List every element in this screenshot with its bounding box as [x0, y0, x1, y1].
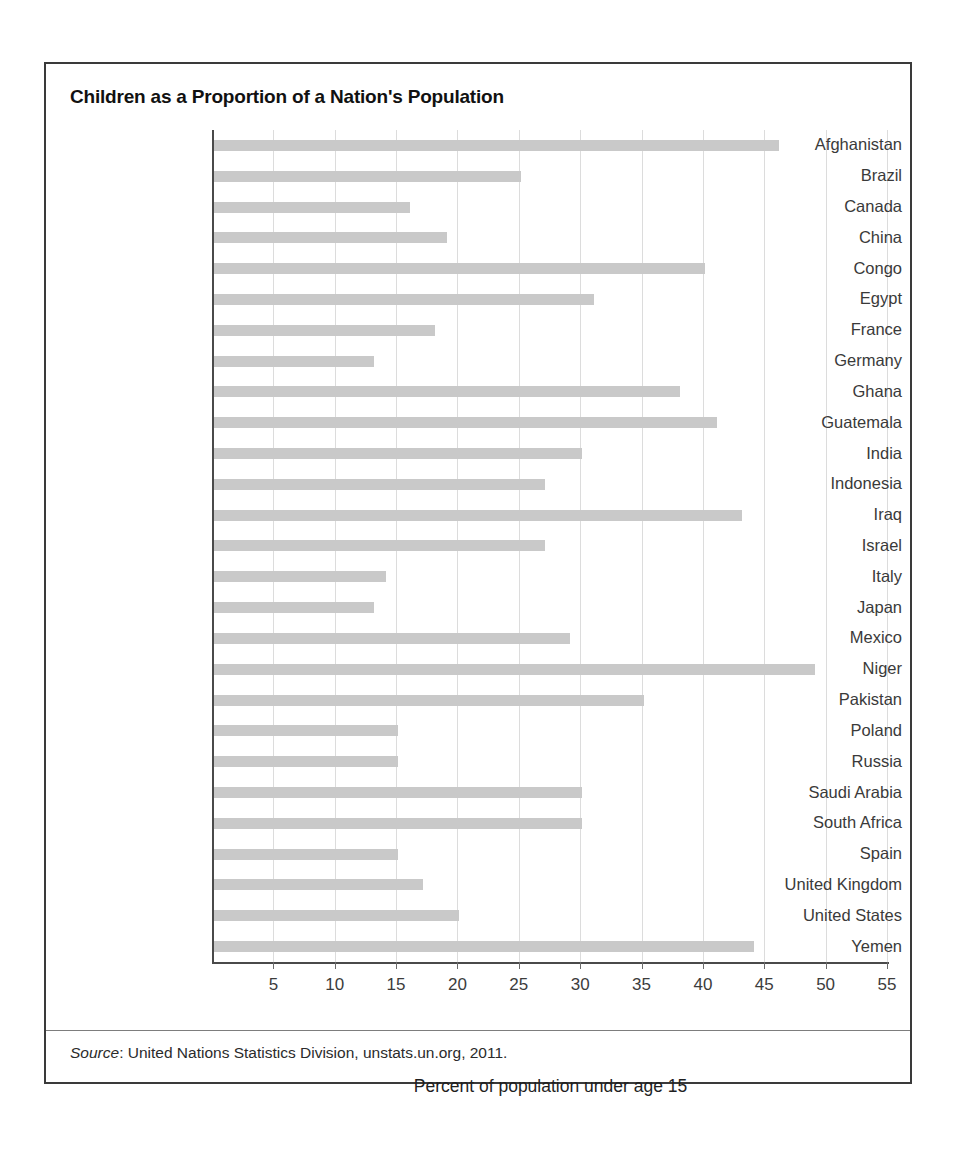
bar-row: Poland: [46, 715, 910, 746]
category-label-china: China: [744, 228, 910, 247]
category-label-spain: Spain: [744, 844, 910, 863]
category-label-south-africa: South Africa: [744, 813, 910, 832]
bar-japan: [214, 602, 374, 613]
bar-row: Italy: [46, 561, 910, 592]
bar-row: Niger: [46, 654, 910, 685]
x-tick-label-55: 55: [857, 975, 917, 995]
category-label-egypt: Egypt: [744, 289, 910, 308]
bar-row: France: [46, 315, 910, 346]
bar-pakistan: [214, 695, 644, 706]
category-label-guatemala: Guatemala: [744, 413, 910, 432]
x-tick-45: [764, 962, 765, 969]
category-label-russia: Russia: [744, 752, 910, 771]
category-label-united-states: United States: [744, 906, 910, 925]
category-label-italy: Italy: [744, 567, 910, 586]
bar-ghana: [214, 386, 680, 397]
bar-russia: [214, 756, 398, 767]
bar-saudi-arabia: [214, 787, 582, 798]
x-tick-label-40: 40: [673, 975, 733, 995]
bar-row: China: [46, 222, 910, 253]
category-label-indonesia: Indonesia: [744, 474, 910, 493]
bar-china: [214, 232, 447, 243]
category-label-yemen: Yemen: [744, 937, 910, 956]
category-label-japan: Japan: [744, 598, 910, 617]
bar-south-africa: [214, 818, 582, 829]
x-axis-line: [212, 962, 889, 964]
category-label-mexico: Mexico: [744, 628, 910, 647]
x-tick-5: [273, 962, 274, 969]
x-tick-label-50: 50: [796, 975, 856, 995]
x-tick-30: [580, 962, 581, 969]
bar-congo: [214, 263, 705, 274]
x-tick-label-25: 25: [489, 975, 549, 995]
bar-row: Germany: [46, 346, 910, 377]
bar-india: [214, 448, 582, 459]
x-tick-label-35: 35: [612, 975, 672, 995]
bar-row: Afghanistan: [46, 130, 910, 161]
bar-row: Congo: [46, 253, 910, 284]
bar-spain: [214, 849, 398, 860]
bar-row: United States: [46, 900, 910, 931]
scan-artifact: [0, 0, 956, 40]
bar-row: Israel: [46, 531, 910, 562]
bar-row: South Africa: [46, 808, 910, 839]
x-tick-label-10: 10: [305, 975, 365, 995]
y-axis-line: [212, 130, 214, 962]
x-tick-label-45: 45: [734, 975, 794, 995]
bar-iraq: [214, 510, 742, 521]
bar-indonesia: [214, 479, 545, 490]
source-text: : United Nations Statistics Division, un…: [119, 1044, 507, 1061]
bar-germany: [214, 356, 374, 367]
category-label-congo: Congo: [744, 259, 910, 278]
bar-italy: [214, 571, 386, 582]
x-tick-label-5: 5: [243, 975, 303, 995]
bar-united-states: [214, 910, 459, 921]
bar-row: Iraq: [46, 500, 910, 531]
bar-yemen: [214, 941, 754, 952]
bar-row: Russia: [46, 746, 910, 777]
figure-frame: Children as a Proportion of a Nation's P…: [44, 62, 912, 1084]
bar-brazil: [214, 171, 521, 182]
x-tick-55: [887, 962, 888, 969]
bar-row: Spain: [46, 839, 910, 870]
category-label-pakistan: Pakistan: [744, 690, 910, 709]
bar-row: Pakistan: [46, 685, 910, 716]
x-tick-20: [457, 962, 458, 969]
bar-united-kingdom: [214, 879, 423, 890]
bar-mexico: [214, 633, 570, 644]
bar-row: Brazil: [46, 161, 910, 192]
category-label-brazil: Brazil: [744, 166, 910, 185]
x-tick-10: [335, 962, 336, 969]
category-label-iraq: Iraq: [744, 505, 910, 524]
bar-row: Mexico: [46, 623, 910, 654]
bar-france: [214, 325, 435, 336]
chart-plot-area: AfghanistanBrazilCanadaChinaCongoEgyptFr…: [46, 130, 910, 990]
x-tick-15: [396, 962, 397, 969]
category-label-poland: Poland: [744, 721, 910, 740]
bar-row: Japan: [46, 592, 910, 623]
category-label-canada: Canada: [744, 197, 910, 216]
x-tick-label-15: 15: [366, 975, 426, 995]
bar-row: Yemen: [46, 931, 910, 962]
source-divider: [46, 1030, 910, 1031]
bar-israel: [214, 540, 545, 551]
x-axis-title: Percent of population under age 15: [212, 1076, 889, 1097]
bar-row: Indonesia: [46, 469, 910, 500]
category-label-india: India: [744, 444, 910, 463]
source-note: Source: United Nations Statistics Divisi…: [70, 1044, 507, 1062]
x-tick-35: [642, 962, 643, 969]
x-tick-25: [519, 962, 520, 969]
bar-row: United Kingdom: [46, 870, 910, 901]
category-label-germany: Germany: [744, 351, 910, 370]
bar-canada: [214, 202, 410, 213]
x-tick-label-30: 30: [550, 975, 610, 995]
category-label-ghana: Ghana: [744, 382, 910, 401]
category-label-united-kingdom: United Kingdom: [744, 875, 910, 894]
bar-row: Guatemala: [46, 407, 910, 438]
bar-afghanistan: [214, 140, 779, 151]
page-title: Children as a Proportion of a Nation's P…: [70, 86, 504, 108]
source-label: Source: [70, 1044, 119, 1061]
bar-egypt: [214, 294, 594, 305]
bar-row: Saudi Arabia: [46, 777, 910, 808]
x-tick-label-20: 20: [427, 975, 487, 995]
